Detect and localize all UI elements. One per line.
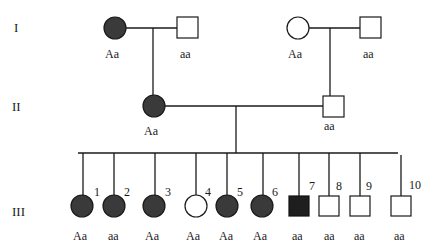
- affected-female-symbol: [216, 195, 238, 217]
- affected-female-symbol: [71, 195, 93, 217]
- genotype-label: aa: [394, 229, 405, 243]
- individual-number: 9: [366, 179, 372, 193]
- affected-female-symbol: [103, 195, 125, 217]
- individual-number: 5: [237, 185, 243, 199]
- generation-label-ii: II: [12, 99, 21, 114]
- individual-number: 7: [309, 179, 315, 193]
- individual-number: 1: [94, 185, 100, 199]
- pedigree-chart: I II III Aa aa Aa aa Aa aa: [0, 0, 436, 251]
- individual-number: 10: [409, 178, 421, 192]
- child-5: 5 Aa: [216, 185, 243, 243]
- generation-label-iii: III: [12, 204, 25, 219]
- genotype-label: Aa: [288, 47, 303, 61]
- unaffected-male-symbol: [391, 196, 411, 216]
- gen1-right-couple: Aa aa: [287, 17, 381, 96]
- unaffected-male-symbol: [323, 96, 344, 117]
- unaffected-male-symbol: [360, 17, 381, 38]
- genotype-label: aa: [363, 47, 374, 61]
- individual-number: 4: [205, 185, 211, 199]
- child-10: 10 aa: [391, 178, 421, 243]
- unaffected-male-symbol: [177, 17, 198, 38]
- individual-number: 8: [336, 179, 342, 193]
- child-9: 9 aa: [350, 179, 372, 243]
- genotype-label: aa: [292, 229, 303, 243]
- child-2: 2 aa: [103, 185, 130, 243]
- affected-female-symbol: [143, 195, 165, 217]
- unaffected-male-symbol: [350, 196, 370, 216]
- generation-label-i: I: [14, 20, 18, 35]
- individual-number: 2: [124, 185, 130, 199]
- individual-number: 3: [165, 185, 171, 199]
- child-8: 8 aa: [319, 179, 342, 243]
- child-4: 4 Aa: [185, 185, 211, 243]
- genotype-label: Aa: [145, 229, 160, 243]
- genotype-label: Aa: [105, 47, 120, 61]
- genotype-label: aa: [108, 229, 119, 243]
- child-7: 7 aa: [289, 179, 315, 243]
- child-6: 6 Aa: [251, 185, 278, 243]
- genotype-label: aa: [324, 229, 335, 243]
- unaffected-male-symbol: [319, 196, 339, 216]
- genotype-label: Aa: [219, 229, 234, 243]
- affected-male-symbol: [289, 196, 309, 216]
- genotype-label: Aa: [73, 229, 88, 243]
- genotype-label: Aa: [186, 229, 201, 243]
- genotype-label: Aa: [144, 124, 159, 138]
- child-1: 1 Aa: [71, 185, 100, 243]
- affected-female-symbol: [104, 17, 126, 39]
- genotype-label: aa: [180, 47, 191, 61]
- genotype-label: Aa: [253, 229, 268, 243]
- child-3: 3 Aa: [143, 185, 171, 243]
- unaffected-female-symbol: [287, 17, 309, 39]
- individual-number: 6: [272, 185, 278, 199]
- unaffected-female-symbol: [185, 195, 207, 217]
- affected-female-symbol: [251, 195, 273, 217]
- gen3-sibship: 1 Aa 2 aa 3 Aa 4 Aa 5 Aa 6: [71, 153, 421, 243]
- affected-female-symbol: [143, 95, 165, 117]
- gen2-couple: Aa aa: [143, 95, 344, 153]
- genotype-label: aa: [354, 229, 365, 243]
- genotype-label: aa: [324, 119, 335, 133]
- gen1-left-couple: Aa aa: [104, 17, 198, 96]
